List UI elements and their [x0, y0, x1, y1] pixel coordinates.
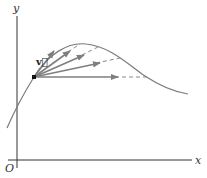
point-marker: [32, 75, 36, 79]
y-axis-label: y: [12, 2, 20, 15]
secant-dashes: [68, 44, 148, 77]
velocity-diagram: v⃗ y x O: [0, 0, 207, 178]
origin-label: O: [5, 162, 14, 175]
vector-v-label: v⃗: [35, 56, 48, 67]
trajectory-curve: [7, 44, 188, 128]
x-axis-label: x: [195, 154, 202, 167]
